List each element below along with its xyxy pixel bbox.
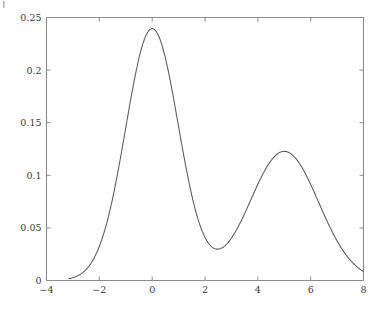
plot-canvas: −4−202468 00.050.10.150.20.25 bbox=[0, 0, 381, 309]
chart-figure: −4−202468 00.050.10.150.20.25 bbox=[0, 0, 381, 309]
x-tick-label: 0 bbox=[149, 284, 155, 295]
y-tick-label: 0.05 bbox=[20, 222, 41, 233]
y-tick-label: 0.1 bbox=[26, 170, 41, 181]
x-tick-label: 6 bbox=[308, 284, 314, 295]
y-tick-label: 0.25 bbox=[20, 12, 41, 23]
x-tick-label: 4 bbox=[255, 284, 261, 295]
y-tick-label: 0.2 bbox=[26, 65, 41, 76]
tick-marks bbox=[47, 18, 364, 281]
y-axis-tick-labels: 00.050.10.150.20.25 bbox=[20, 12, 41, 286]
density-curve bbox=[69, 29, 364, 279]
y-tick-label: 0 bbox=[35, 275, 41, 286]
x-tick-label: 8 bbox=[360, 284, 366, 295]
x-axis-tick-labels: −4−202468 bbox=[39, 284, 366, 295]
x-tick-label: −2 bbox=[92, 284, 106, 295]
x-tick-label: −4 bbox=[39, 284, 53, 295]
x-tick-label: 2 bbox=[202, 284, 208, 295]
axes-frame bbox=[47, 18, 364, 281]
y-tick-label: 0.15 bbox=[20, 117, 41, 128]
corner-artifact-mark bbox=[3, 1, 5, 8]
